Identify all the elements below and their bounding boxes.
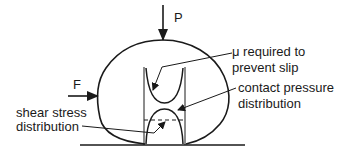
- mu-curve: [146, 68, 183, 103]
- pressure-label-line2: distribution: [238, 96, 301, 111]
- shear-label-line1: shear stress: [16, 105, 87, 120]
- body-outline: [98, 40, 229, 144]
- pressure-leader-arrow: [178, 88, 236, 110]
- pressure-label-line1: contact pressure: [238, 80, 334, 95]
- shear-leader-arrow: [82, 122, 165, 133]
- shear-label-line2: distribution: [16, 119, 79, 134]
- load-p-label: P: [174, 10, 183, 25]
- mu-leader-arrow: [153, 53, 232, 90]
- mu-label-line1: μ required to: [232, 44, 305, 59]
- force-f-label: F: [73, 77, 81, 92]
- contact-mechanics-diagram: P F μ required to prevent slip contact p…: [0, 0, 344, 158]
- mu-label-line2: prevent slip: [232, 60, 298, 75]
- pressure-curve: [146, 109, 183, 144]
